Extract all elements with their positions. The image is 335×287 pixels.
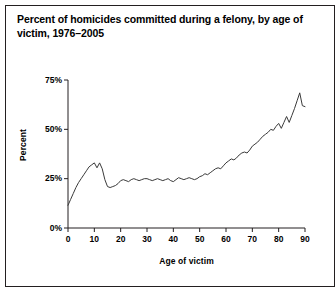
x-tick-label: 50	[188, 234, 212, 244]
x-tick-label: 20	[109, 234, 133, 244]
x-tick-label: 30	[135, 234, 159, 244]
x-tick-label: 70	[240, 234, 264, 244]
x-tick-label: 40	[161, 234, 185, 244]
x-axis-label: Age of victim	[68, 256, 305, 266]
y-axis-label: Percent	[18, 110, 28, 180]
y-tick-label: 0%	[32, 223, 62, 233]
y-axis-ticks	[64, 80, 68, 228]
x-tick-label: 60	[214, 234, 238, 244]
x-axis-ticks	[68, 228, 305, 232]
y-tick-label: 25%	[32, 173, 62, 183]
x-tick-label: 90	[293, 234, 317, 244]
axes	[64, 80, 305, 232]
x-tick-label: 0	[56, 234, 80, 244]
y-tick-label: 50%	[32, 124, 62, 134]
x-tick-label: 10	[82, 234, 106, 244]
y-tick-label: 75%	[32, 75, 62, 85]
x-tick-label: 80	[267, 234, 291, 244]
data-series-line	[68, 93, 305, 205]
